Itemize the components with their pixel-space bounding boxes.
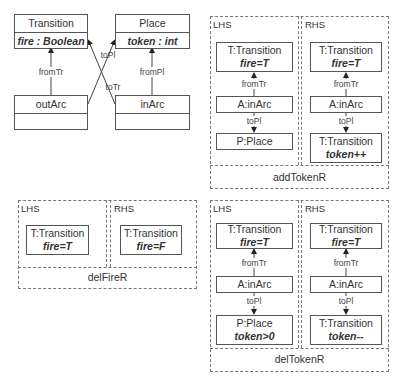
node-attr: token>0: [217, 330, 292, 343]
node-name: A:inArc: [311, 98, 381, 111]
node-name: A:inArc: [217, 278, 292, 291]
node-transition: T:Transition fire=T: [216, 223, 293, 249]
node-name: T:Transition: [311, 44, 381, 57]
node-attr: fire=T: [217, 57, 292, 70]
class-name: outArc: [15, 96, 87, 114]
edge-label-topl: toPl: [98, 50, 118, 60]
node-transition: T:Transition fire=T: [216, 42, 293, 72]
class-name: Place: [116, 15, 189, 33]
node-attr: fire=T: [311, 236, 381, 249]
node-name: T:Transition: [27, 227, 88, 240]
class-attribute: fire : Boolean: [15, 33, 87, 50]
rule-name: addTokenR: [211, 171, 388, 183]
node-name: P:Place: [217, 135, 292, 148]
node-name: T:Transition: [311, 317, 381, 330]
edge-label-fromtr: fromTr: [330, 258, 362, 268]
class-place: Place token : int: [115, 14, 190, 49]
node-place: P:Place token>0: [216, 315, 293, 345]
rule-name: delTokenR: [211, 353, 388, 365]
node-transition-result: T:Transition token--: [310, 315, 382, 345]
node-name: A:inArc: [217, 98, 292, 111]
node-attr: token++: [311, 148, 381, 161]
class-transition: Transition fire : Boolean: [14, 14, 88, 49]
edge-label-totr: toTr: [102, 82, 124, 92]
class-attribute: [15, 114, 87, 131]
edge-label-topl: toPl: [242, 116, 266, 126]
node-transition-result: T:Transition token++: [310, 133, 382, 163]
node-inarc: A:inArc: [216, 276, 293, 293]
label-divider: [210, 348, 389, 349]
edge-label-topl: toPl: [242, 296, 266, 306]
edge-label-fromtr: fromTr: [330, 79, 362, 89]
class-name: inArc: [116, 96, 189, 114]
lhs-label: LHS: [213, 19, 231, 30]
rule-name: delFireR: [19, 271, 196, 283]
label-divider: [210, 165, 389, 166]
node-attr: fire=T: [27, 240, 88, 253]
node-name: T:Transition: [311, 135, 381, 148]
node-attr: fire=F: [121, 240, 181, 253]
edge-label-fromtr: fromTr: [35, 67, 67, 77]
lhs-label: LHS: [21, 203, 39, 214]
edge-label-fromtr: fromTr: [238, 79, 270, 89]
node-transition: T:Transition fire=T: [310, 223, 382, 249]
rhs-label: RHS: [305, 203, 325, 214]
edge-label-fromtr: fromTr: [238, 258, 270, 268]
class-outarc: outArc: [14, 95, 88, 130]
node-attr: fire=T: [311, 57, 381, 70]
node-attr: token--: [311, 330, 381, 343]
edge-label-topl: toPl: [334, 296, 358, 306]
edge-label-frompl: fromPl: [136, 67, 168, 77]
node-name: A:inArc: [311, 278, 381, 291]
class-attribute: token : int: [116, 33, 189, 50]
node-name: T:Transition: [311, 223, 381, 236]
node-transition: T:Transition fire=F: [120, 225, 182, 255]
node-place: P:Place: [216, 133, 293, 150]
node-inarc: A:inArc: [310, 276, 382, 293]
node-name: T:Transition: [217, 223, 292, 236]
class-name: Transition: [15, 15, 87, 33]
node-name: P:Place: [217, 317, 292, 330]
node-name: T:Transition: [217, 44, 292, 57]
node-transition: T:Transition fire=T: [310, 42, 382, 72]
edge-label-topl: toPl: [334, 116, 358, 126]
label-divider: [18, 267, 197, 268]
node-transition: T:Transition fire=T: [26, 225, 89, 255]
node-attr: fire=T: [217, 236, 292, 249]
rhs-label: RHS: [114, 203, 134, 214]
lhs-label: LHS: [213, 203, 231, 214]
node-name: T:Transition: [121, 227, 181, 240]
rhs-label: RHS: [305, 19, 325, 30]
class-attribute: [116, 114, 189, 131]
node-inarc: A:inArc: [310, 96, 382, 113]
node-inarc: A:inArc: [216, 96, 293, 113]
class-inarc: inArc: [115, 95, 190, 130]
